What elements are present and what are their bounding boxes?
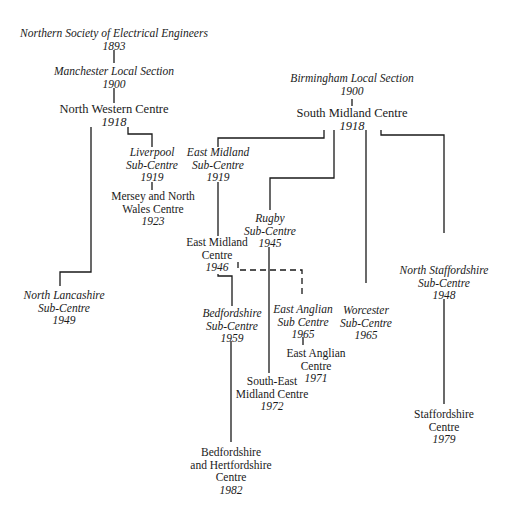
node-label: Centre <box>286 360 345 373</box>
node-manchester-local-section: Manchester Local Section 1900 <box>54 65 174 90</box>
node-label: East Anglian <box>273 303 333 316</box>
node-year: 1946 <box>186 261 248 274</box>
node-east-midland-sub-centre: East Midland Sub-Centre 1919 <box>187 146 249 184</box>
node-year: 1972 <box>236 400 309 413</box>
node-label: Bedfordshire <box>190 446 271 459</box>
node-year: 1900 <box>54 78 174 91</box>
node-year: 1919 <box>187 171 249 184</box>
node-year: 1948 <box>400 289 489 302</box>
node-label: South-East <box>236 375 309 388</box>
node-rugby-sub-centre: Rugby Sub-Centre 1945 <box>244 212 296 250</box>
node-worcester-sub-centre: Worcester Sub-Centre 1965 <box>340 304 392 342</box>
node-year: 1965 <box>273 328 333 341</box>
edge-emc-bsc <box>218 274 232 306</box>
node-year: 1918 <box>59 116 168 129</box>
node-label: Sub-Centre <box>187 159 249 172</box>
node-label: Sub Centre <box>273 316 333 329</box>
node-label: East Midland <box>187 146 249 159</box>
node-year: 1965 <box>340 329 392 342</box>
node-label: Rugby <box>244 212 296 225</box>
node-year: 1979 <box>414 433 474 446</box>
edge-nwc-lsc <box>128 127 152 147</box>
node-north-lancashire-sub-centre: North Lancashire Sub-Centre 1949 <box>23 289 104 327</box>
node-year: 1900 <box>290 85 413 98</box>
node-label: Liverpool <box>126 146 178 159</box>
node-year: 1945 <box>244 237 296 250</box>
node-east-midland-centre: East Midland Centre 1946 <box>186 236 248 274</box>
node-year: 1959 <box>202 332 261 345</box>
node-label: Sub-Centre <box>340 317 392 330</box>
node-label: Centre <box>190 471 271 484</box>
node-liverpool-sub-centre: Liverpool Sub-Centre 1919 <box>126 146 178 184</box>
node-label: Manchester Local Section <box>54 65 174 78</box>
node-label: Staffordshire <box>414 408 474 421</box>
node-label: East Anglian <box>286 347 345 360</box>
node-label: Sub-Centre <box>244 225 296 238</box>
node-staffordshire-centre: Staffordshire Centre 1979 <box>414 408 474 446</box>
node-year: 1918 <box>296 120 407 133</box>
edge-smc-rsc <box>270 130 334 210</box>
node-north-western-centre: North Western Centre 1918 <box>59 103 168 129</box>
node-label: North Staffordshire <box>400 264 489 277</box>
node-north-staffordshire-sub-centre: North Staffordshire Sub-Centre 1948 <box>400 264 489 302</box>
node-label: and Hertfordshire <box>190 459 271 472</box>
edge-smc-nssc <box>381 130 444 233</box>
node-label: Midland Centre <box>236 388 309 401</box>
node-birmingham-local-section: Birmingham Local Section 1900 <box>290 72 413 97</box>
node-label: Sub-Centre <box>23 302 104 315</box>
node-label: North Lancashire <box>23 289 104 302</box>
node-label: Birmingham Local Section <box>290 72 413 85</box>
node-northern-society: Northern Society of Electrical Engineers… <box>20 27 208 52</box>
node-year: 1893 <box>20 40 208 53</box>
node-label: Northern Society of Electrical Engineers <box>20 27 208 40</box>
node-year: 1982 <box>190 484 271 497</box>
node-bedfordshire-hertfordshire-centre: Bedfordshire and Hertfordshire Centre 19… <box>190 446 271 496</box>
node-label: Wales Centre <box>111 203 195 216</box>
node-year: 1949 <box>23 314 104 327</box>
node-label: Centre <box>414 421 474 434</box>
node-label: East Midland <box>186 236 248 249</box>
node-label: Sub-Centre <box>202 320 261 333</box>
node-bedfordshire-sub-centre: Bedfordshire Sub-Centre 1959 <box>202 307 261 345</box>
edge-nwc-nlsc <box>60 127 91 286</box>
node-label: Mersey and North <box>111 190 195 203</box>
node-mersey-north-wales-centre: Mersey and North Wales Centre 1923 <box>111 190 195 228</box>
node-south-midland-centre: South Midland Centre 1918 <box>296 107 407 133</box>
node-label: Centre <box>186 249 248 262</box>
node-label: Sub-Centre <box>400 277 489 290</box>
node-year: 1923 <box>111 215 195 228</box>
node-south-east-midland-centre: South-East Midland Centre 1972 <box>236 375 309 413</box>
node-label: Sub-Centre <box>126 159 178 172</box>
node-label: Worcester <box>340 304 392 317</box>
node-year: 1919 <box>126 171 178 184</box>
centres-genealogy-diagram: Northern Society of Electrical Engineers… <box>0 0 509 510</box>
node-east-anglian-sub-centre: East Anglian Sub Centre 1965 <box>273 303 333 341</box>
node-label: Bedfordshire <box>202 307 261 320</box>
